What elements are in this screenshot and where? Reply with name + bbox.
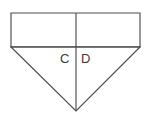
vertex-label-c: C: [60, 52, 69, 65]
geometry-figure-svg: [0, 0, 148, 120]
vertex-label-d: D: [81, 52, 90, 65]
geometry-figure-canvas: C D: [0, 0, 148, 120]
